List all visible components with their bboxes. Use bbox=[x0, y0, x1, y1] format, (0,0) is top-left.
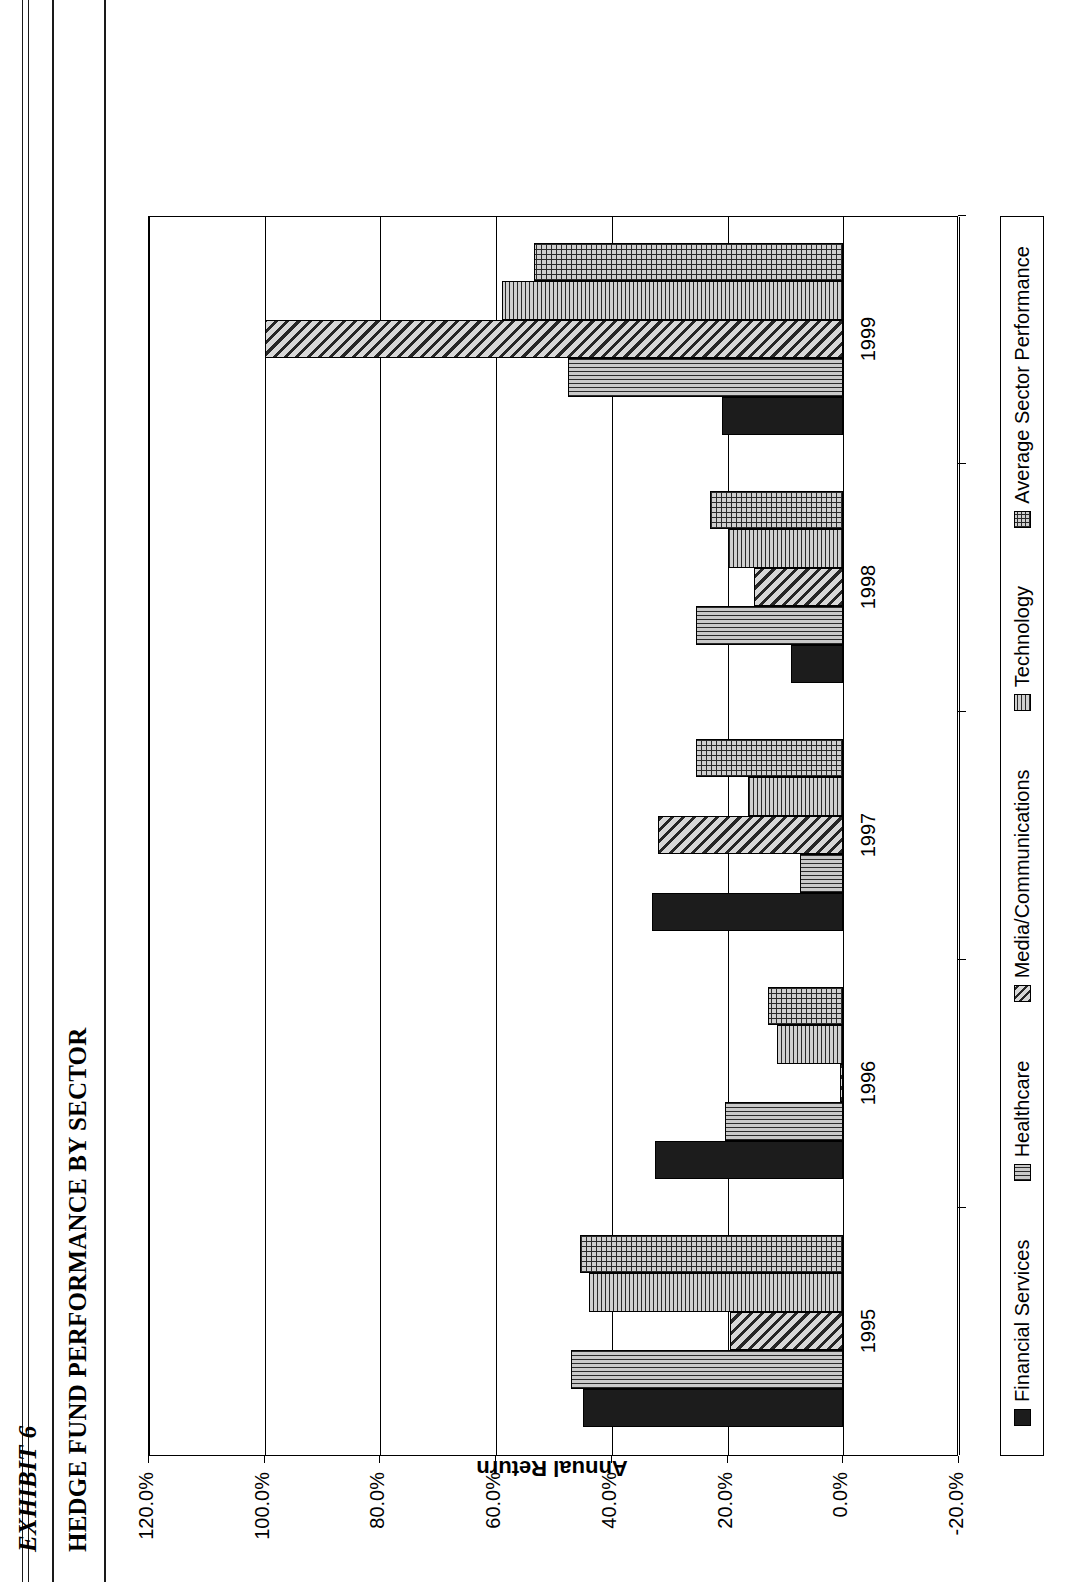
legend-item-financial-services[interactable]: Financial Services bbox=[1011, 1240, 1034, 1426]
gridline bbox=[959, 217, 960, 1455]
bar-1998-media-communications bbox=[754, 568, 844, 606]
title-divider-top bbox=[52, 0, 54, 1582]
x-axis-category-label: 1998 bbox=[857, 463, 880, 711]
bar-1996-media-communications bbox=[840, 1064, 843, 1102]
chart-title: HEDGE FUND PERFORMANCE BY SECTOR bbox=[64, 1028, 92, 1553]
y-axis-title: Annual Return bbox=[442, 1455, 662, 1481]
y-axis-tick-label: -20.0% bbox=[945, 1472, 968, 1582]
plot-area: 19951996199719981999 bbox=[148, 216, 958, 1456]
y-axis-tick-label: 0.0% bbox=[829, 1472, 852, 1582]
legend-swatch-icon bbox=[1014, 694, 1031, 711]
bar-1998-average-sector-performance bbox=[710, 491, 843, 529]
bar-1999-average-sector-performance bbox=[534, 243, 844, 281]
x-axis-tick bbox=[958, 1207, 966, 1208]
bar-1995-technology bbox=[589, 1273, 844, 1311]
bar-1995-average-sector-performance bbox=[580, 1235, 843, 1273]
legend-item-label: Healthcare bbox=[1011, 1061, 1034, 1158]
x-axis-tick bbox=[958, 215, 966, 216]
y-axis-tick-label: 100.0% bbox=[251, 1472, 274, 1582]
y-axis-tick-label: 60.0% bbox=[482, 1472, 505, 1582]
legend-swatch-icon bbox=[1014, 1164, 1031, 1181]
y-axis-tick bbox=[958, 1456, 959, 1463]
chart-legend: Financial ServicesHealthcareMedia/Commun… bbox=[1000, 216, 1044, 1456]
bar-1996-financial-services bbox=[655, 1141, 843, 1179]
legend-swatch-icon bbox=[1014, 511, 1031, 528]
bar-1998-technology bbox=[728, 529, 844, 567]
legend-item-label: Media/Communications bbox=[1011, 769, 1034, 978]
y-axis-tick-label: 120.0% bbox=[135, 1472, 158, 1582]
bar-1996-technology bbox=[777, 1025, 844, 1063]
rotated-exhibit-canvas: EXHIBIT 6 HEDGE FUND PERFORMANCE BY SECT… bbox=[0, 0, 1092, 1582]
x-axis-category-label: 1996 bbox=[857, 959, 880, 1207]
bar-1998-financial-services bbox=[791, 645, 843, 683]
y-axis-tick bbox=[379, 1456, 380, 1463]
bar-1999-technology bbox=[502, 281, 843, 319]
bar-1999-healthcare bbox=[568, 358, 843, 396]
bar-1998-healthcare bbox=[696, 606, 844, 644]
x-axis-tick bbox=[958, 463, 966, 464]
bar-1999-financial-services bbox=[722, 397, 844, 435]
gridline bbox=[496, 217, 497, 1455]
y-axis-tick-label: 80.0% bbox=[366, 1472, 389, 1582]
y-axis-tick bbox=[842, 1456, 843, 1463]
legend-item-average-sector-performance[interactable]: Average Sector Performance bbox=[1011, 246, 1034, 528]
bar-1997-healthcare bbox=[800, 854, 843, 892]
x-axis-tick bbox=[958, 959, 966, 960]
gridline bbox=[380, 217, 381, 1455]
x-axis-category-label: 1999 bbox=[857, 215, 880, 463]
bar-1997-media-communications bbox=[658, 816, 843, 854]
exhibit-container: EXHIBIT 6 HEDGE FUND PERFORMANCE BY SECT… bbox=[0, 0, 1092, 1582]
legend-item-technology[interactable]: Technology bbox=[1011, 586, 1034, 711]
gridline bbox=[149, 217, 150, 1455]
bar-1997-financial-services bbox=[652, 893, 843, 931]
bar-1995-healthcare bbox=[571, 1350, 843, 1388]
legend-item-label: Average Sector Performance bbox=[1011, 246, 1034, 504]
bar-1996-average-sector-performance bbox=[768, 987, 843, 1025]
x-axis-category-label: 1997 bbox=[857, 711, 880, 959]
bar-1995-financial-services bbox=[583, 1389, 843, 1427]
legend-swatch-icon bbox=[1014, 1409, 1031, 1426]
x-axis-tick bbox=[958, 711, 966, 712]
gridline bbox=[843, 217, 844, 1455]
y-axis-tick-label: 40.0% bbox=[598, 1472, 621, 1582]
bar-1996-healthcare bbox=[725, 1102, 844, 1140]
legend-item-label: Technology bbox=[1011, 586, 1034, 687]
y-axis-tick-label: 20.0% bbox=[714, 1472, 737, 1582]
legend-item-media-communications[interactable]: Media/Communications bbox=[1011, 769, 1034, 1002]
legend-item-healthcare[interactable]: Healthcare bbox=[1011, 1061, 1034, 1182]
exhibit-number-label: EXHIBIT 6 bbox=[14, 1425, 42, 1552]
y-axis-tick bbox=[727, 1456, 728, 1463]
legend-swatch-icon bbox=[1014, 985, 1031, 1002]
bar-1995-media-communications bbox=[730, 1312, 843, 1350]
bar-1999-media-communications bbox=[265, 320, 844, 358]
legend-item-label: Financial Services bbox=[1011, 1240, 1034, 1402]
y-axis-tick bbox=[264, 1456, 265, 1463]
gridline bbox=[265, 217, 266, 1455]
y-axis-tick bbox=[148, 1456, 149, 1463]
x-axis-category-label: 1995 bbox=[857, 1207, 880, 1455]
bar-1997-average-sector-performance bbox=[696, 739, 844, 777]
plot-wrapper: 19951996199719981999 -20.0%0.0%20.0%40.0… bbox=[148, 216, 958, 1456]
title-divider-bottom bbox=[104, 0, 106, 1582]
bar-1997-technology bbox=[748, 777, 843, 815]
